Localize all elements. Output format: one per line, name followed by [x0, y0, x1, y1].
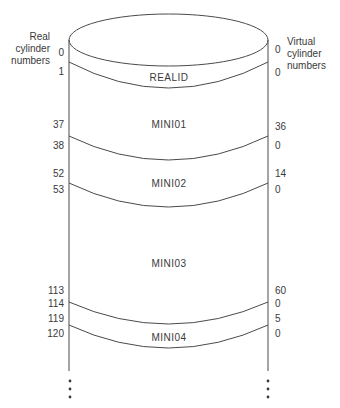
virtual-cylinder-number: 36	[275, 121, 305, 132]
divider-mini01-bottom	[69, 136, 268, 160]
real-cylinder-number: 119	[34, 313, 64, 324]
continuation-dots-left	[69, 380, 72, 399]
minidisk-cylinder-diagram: Real cylinder numbers Virtual cylinder n…	[0, 0, 340, 408]
virtual-cylinder-number: 0	[275, 67, 305, 78]
real-cylinder-number: 120	[34, 328, 64, 339]
real-cylinder-number: 0	[34, 47, 64, 58]
virtual-cylinder-number: 60	[275, 285, 305, 296]
cylinder-top-ellipse	[69, 14, 268, 66]
minidisk-label-mini01: MINI01	[69, 119, 269, 130]
minidisk-label-mini02: MINI02	[69, 178, 269, 189]
minidisk-label-mini04: MINI04	[69, 332, 269, 343]
virtual-cylinder-number: 0	[275, 298, 305, 309]
virtual-cylinder-number: 0	[275, 184, 305, 195]
continuation-dots-right	[267, 380, 270, 399]
real-cylinder-number: 37	[34, 119, 64, 130]
virtual-cylinder-number: 0	[275, 140, 305, 151]
real-cylinder-number: 113	[34, 285, 64, 296]
real-cylinder-number: 52	[34, 168, 64, 179]
divider-mini03-bottom	[69, 302, 268, 324]
virtual-cylinder-number: 14	[275, 168, 305, 179]
virtual-cylinder-number: 5	[275, 313, 305, 324]
virtual-cylinder-number: 0	[275, 44, 305, 55]
virtual-cylinder-number: 0	[275, 328, 305, 339]
title-line: Real	[0, 31, 50, 43]
minidisk-label-mini03: MINI03	[69, 258, 269, 269]
real-cylinder-number: 114	[34, 298, 64, 309]
real-cylinder-number: 53	[34, 184, 64, 195]
real-cylinder-number: 38	[34, 140, 64, 151]
real-cylinder-number: 1	[34, 66, 64, 77]
minidisk-label-realid: REALID	[69, 72, 269, 83]
